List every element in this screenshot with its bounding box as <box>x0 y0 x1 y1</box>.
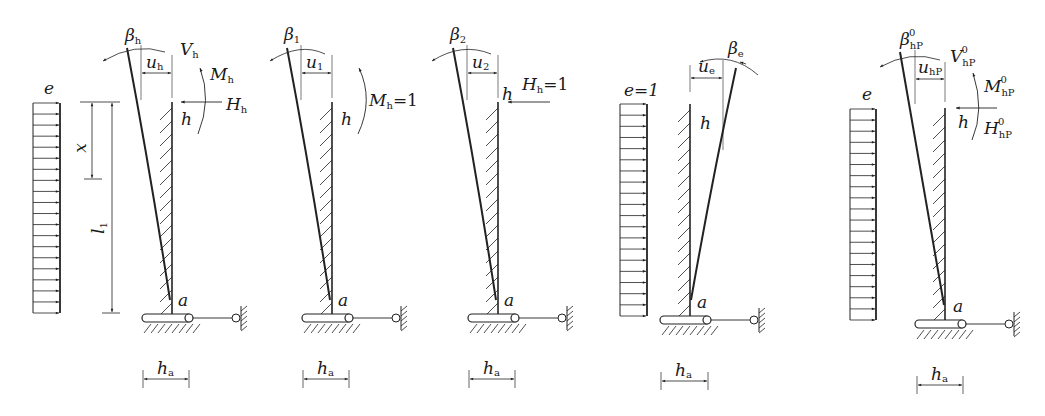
a-label: a <box>953 296 963 316</box>
load-label: e=1 <box>624 80 659 100</box>
load-label: e <box>862 84 872 104</box>
anchor-base: a <box>142 290 247 333</box>
ha-label: ha <box>483 358 500 378</box>
h-label: h <box>700 113 711 133</box>
a-label: a <box>697 292 707 312</box>
dimension-ha: ha <box>661 360 708 390</box>
H-label: Hh=1 <box>521 74 568 95</box>
panel-4: e=1 ue βe h a ha <box>620 38 765 390</box>
M-label: MhP0 <box>983 74 1015 98</box>
V-label: Vh <box>180 39 199 60</box>
a-label: a <box>338 290 348 310</box>
load-arrows <box>850 109 875 320</box>
anchor-base: a <box>302 290 407 333</box>
wall <box>127 45 172 316</box>
wall-hatch <box>320 108 332 315</box>
load-arrows <box>33 103 59 313</box>
retaining-wall-diagram: e x l1 uh βh Vh M <box>0 0 1045 416</box>
distributed-load: e <box>33 78 60 313</box>
wall-hatch <box>678 110 690 317</box>
dimension-x: x <box>70 102 120 179</box>
h-label: h <box>502 84 513 104</box>
dimension-l1: l1 <box>88 103 120 313</box>
u-label: u1 <box>306 52 323 72</box>
ha-label: ha <box>317 358 334 378</box>
ha-label: ha <box>157 358 174 378</box>
wall-hatch <box>486 108 498 315</box>
u-label: u2 <box>472 52 489 72</box>
panel-1: e x l1 uh βh Vh M <box>33 25 248 388</box>
h-label: h <box>958 112 969 132</box>
a-label: a <box>504 290 514 310</box>
panel-3: u2 β2 Hh=1 h a ha <box>432 24 573 388</box>
dimension-ha: ha <box>917 364 963 394</box>
l1-label: l1 <box>88 222 109 234</box>
u-label: uh <box>146 52 164 72</box>
panel-5: e uhP βhP0 VhP0 MhP0 HhP0 h a ha <box>850 27 1020 394</box>
beta-label: βhP0 <box>899 27 923 51</box>
beta-label: β1 <box>283 24 300 45</box>
dimension-ha: ha <box>469 358 515 388</box>
H-label: HhP0 <box>983 116 1012 140</box>
panel-2: u1 β1 Mh=1 h a ha <box>270 24 418 388</box>
dimension-ha: ha <box>143 358 189 388</box>
load-arrows <box>620 104 646 316</box>
wall-hatch <box>933 114 945 321</box>
load-label: e <box>44 78 54 98</box>
M-label: Mh <box>209 64 234 85</box>
anchor-base: a <box>468 290 573 333</box>
V-label: VhP0 <box>950 44 976 68</box>
distributed-load: e=1 <box>620 80 659 316</box>
dimension-ha: ha <box>303 358 349 388</box>
ha-label: ha <box>931 364 948 384</box>
M-label: Mh=1 <box>368 90 418 111</box>
ha-label: ha <box>675 360 692 380</box>
wall-hatch <box>160 108 172 315</box>
distributed-load: e <box>850 84 876 320</box>
H-label: Hh <box>225 94 248 115</box>
a-label: a <box>178 290 188 310</box>
anchor-base: a <box>660 292 765 335</box>
beta-label: βe <box>727 38 744 59</box>
h-label: h <box>181 109 192 129</box>
beta-label: β2 <box>449 24 466 45</box>
anchor-base: a <box>915 296 1020 339</box>
beta-label: βh <box>124 25 142 46</box>
h-label: h <box>341 109 352 129</box>
x-label: x <box>70 143 90 153</box>
